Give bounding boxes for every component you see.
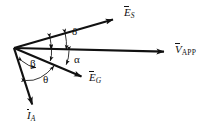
vector-line-es (14, 20, 113, 49)
angle-label-delta: δ (72, 26, 77, 37)
phasor-diagram: ES VAPP EG IA δ α β θ (0, 0, 215, 129)
vector-label-eg: EG (89, 72, 101, 85)
angle-label-alpha: α (74, 54, 80, 65)
vector-symbol-ia: I (27, 110, 31, 121)
vector-subscript-eg: G (96, 76, 101, 85)
vector-label-ia: IA (27, 110, 35, 123)
angle-label-theta: θ (43, 74, 48, 85)
vector-symbol-es: E (124, 7, 131, 18)
vector-symbol-vapp: V (175, 44, 182, 55)
angle-label-beta: β (30, 58, 36, 69)
vector-symbol-eg: E (89, 72, 96, 83)
vector-subscript-vapp: APP (182, 48, 196, 57)
vector-line-vapp (14, 48, 164, 52)
angle-arc-delta-inner (50, 38, 51, 49)
angle-arc-alpha (66, 51, 69, 65)
vector-label-es: ES (124, 7, 134, 20)
angle-arc-alpha-inner (50, 50, 51, 61)
vector-lines (14, 20, 164, 105)
angle-arc-delta (65, 33, 66, 49)
vector-label-vapp: VAPP (175, 44, 196, 57)
vector-subscript-ia: A (31, 114, 36, 123)
vector-subscript-es: S (131, 11, 135, 20)
